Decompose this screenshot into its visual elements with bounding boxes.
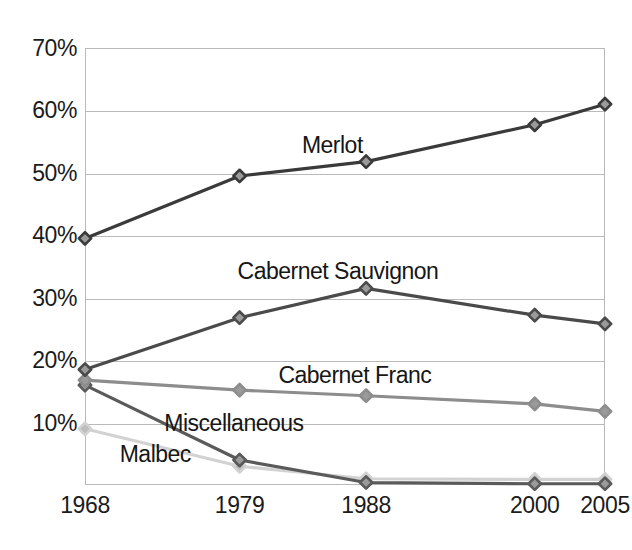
data-point-marker	[529, 119, 541, 131]
series-label-miscellaneous: Miscellaneous	[164, 412, 303, 435]
data-point-marker	[233, 384, 245, 396]
data-point-marker	[233, 311, 245, 323]
data-point-marker	[529, 398, 541, 410]
data-point-marker	[529, 309, 541, 321]
data-point-marker	[233, 170, 245, 182]
data-point-marker	[360, 155, 372, 167]
series-label-merlot: Merlot	[302, 133, 363, 156]
x-tick-label: 1968	[60, 492, 110, 519]
data-point-marker	[360, 390, 372, 402]
x-tick-label: 2005	[580, 492, 630, 519]
series-line	[85, 104, 605, 238]
series-line	[85, 288, 605, 369]
data-point-marker	[360, 282, 372, 294]
x-tick-label: 1988	[341, 492, 391, 519]
series-label-cabernet-sauvignon: Cabernet Sauvignon	[238, 260, 439, 283]
series-line	[85, 385, 605, 484]
series-merlot	[79, 98, 611, 245]
series-label-malbec: Malbec	[120, 442, 191, 465]
line-chart: 10%20%30%40%50%60%70% 196819791988200020…	[0, 0, 632, 550]
x-tick-label: 1979	[215, 492, 265, 519]
series-label-cabernet-franc: Cabernet Franc	[278, 364, 431, 387]
x-tick-label: 2000	[510, 492, 560, 519]
